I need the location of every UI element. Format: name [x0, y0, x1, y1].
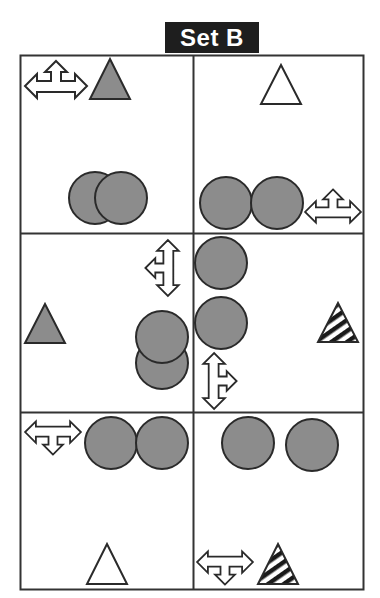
four-way-arrow-icon — [25, 421, 81, 454]
grid-lines — [20, 55, 364, 590]
gray-triangle-icon — [90, 59, 130, 99]
gray-circle-icon — [195, 297, 247, 349]
gray-circle-icon — [286, 419, 338, 471]
gray-circle-icon — [136, 311, 188, 363]
cell-r2-c1 — [25, 240, 188, 389]
gray-triangle-icon — [25, 304, 65, 343]
cell-r3-c1 — [25, 417, 188, 584]
striped-triangle-icon — [258, 544, 298, 584]
gray-circle-icon — [195, 237, 247, 289]
striped-triangle-icon — [318, 303, 358, 342]
gray-circle-icon — [222, 417, 274, 469]
outline-triangle-icon — [261, 65, 301, 104]
four-way-arrow-icon — [25, 61, 87, 98]
gray-circle-icon — [200, 177, 252, 229]
gray-circle-icon — [136, 417, 188, 469]
four-way-arrow-icon — [305, 189, 361, 222]
cell-r1-c2 — [200, 65, 361, 229]
gray-circle-icon — [85, 417, 137, 469]
cell-r3-c2 — [197, 417, 338, 585]
gray-circle-icon — [251, 177, 303, 229]
four-way-arrow-icon — [145, 240, 178, 296]
cell-r2-c2 — [195, 237, 358, 409]
outline-triangle-icon — [87, 544, 127, 584]
puzzle-grid — [0, 0, 380, 598]
four-way-arrow-icon — [197, 551, 253, 584]
cell-r1-c1 — [25, 59, 147, 224]
four-way-arrow-icon — [203, 353, 236, 409]
gray-circle-icon — [95, 172, 147, 224]
